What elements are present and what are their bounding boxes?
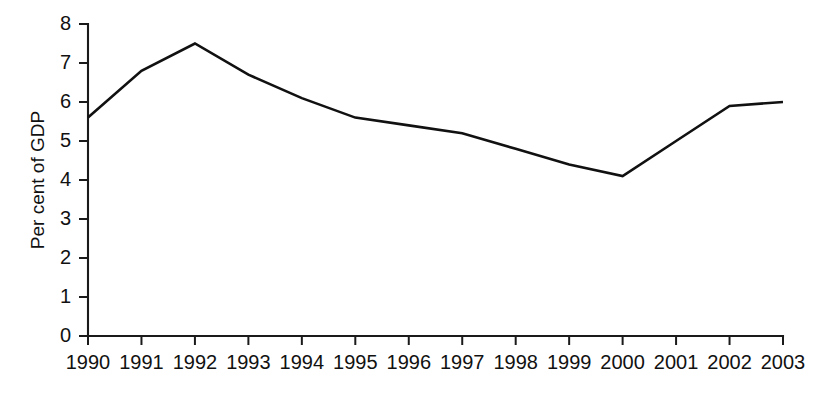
x-tick-label: 1997 [440, 351, 485, 373]
x-tick-label: 1995 [333, 351, 378, 373]
x-tick-label: 2000 [600, 351, 645, 373]
y-tick-label: 5 [60, 129, 71, 151]
y-tick-label: 0 [60, 324, 71, 346]
x-tick-label: 2003 [761, 351, 806, 373]
x-tick-label: 1991 [119, 351, 164, 373]
x-tick-label: 1992 [173, 351, 218, 373]
line-chart: Per cent of GDP 012345678 19901991199219… [0, 0, 833, 394]
y-tick-label: 1 [60, 285, 71, 307]
x-tick-label: 2001 [654, 351, 699, 373]
x-tick-label: 2002 [707, 351, 752, 373]
x-tick-label: 1990 [66, 351, 111, 373]
x-axis-ticks: 1990199119921993199419951996199719981999… [66, 336, 806, 373]
y-tick-label: 8 [60, 12, 71, 34]
y-axis-title-label: Per cent of GDP [27, 111, 48, 249]
y-tick-label: 6 [60, 90, 71, 112]
y-tick-label: 4 [60, 168, 71, 190]
y-tick-label: 7 [60, 51, 71, 73]
y-tick-label: 3 [60, 207, 71, 229]
axis-spine [88, 24, 783, 336]
y-axis-ticks: 012345678 [60, 12, 88, 346]
x-tick-label: 1999 [547, 351, 592, 373]
y-tick-label: 2 [60, 246, 71, 268]
data-series-line [88, 44, 783, 177]
x-tick-label: 1994 [280, 351, 325, 373]
x-tick-label: 1993 [226, 351, 271, 373]
y-axis-title: Per cent of GDP [27, 111, 48, 249]
chart-canvas: Per cent of GDP 012345678 19901991199219… [0, 0, 833, 394]
x-tick-label: 1998 [493, 351, 538, 373]
x-tick-label: 1996 [387, 351, 432, 373]
